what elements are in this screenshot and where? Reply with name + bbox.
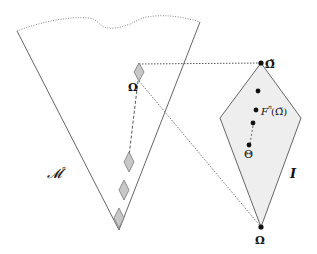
dot-1 [256,89,261,94]
cone-top-boundary [17,16,200,31]
region-I [220,63,301,227]
label-omega-left: Ω [128,81,138,94]
dot-omega-bottom [258,224,263,229]
diamond-2 [124,152,134,172]
label-region-I: I [289,166,297,181]
diamond-omega [134,63,144,81]
top-connector [139,63,261,64]
left-cone-manifold [17,16,200,230]
label-manifold-superscript: n [62,164,66,171]
dot-theta [247,143,252,148]
diamond-4 [114,208,124,228]
dot-omega-tilde [258,60,263,65]
dot-3 [251,121,256,126]
diamond-3 [119,180,129,200]
diagram-canvas: Ω 𝓜 n Ω̃ F n (Ω̃) Θ I Ω [0,0,317,254]
cone-left-edge [17,31,119,230]
cone-right-edge [119,22,200,230]
label-F-argument: (Ω̃) [271,106,287,117]
label-theta: Θ [244,148,253,161]
label-omega-bottom: Ω [255,234,265,247]
dot-fn-omega [254,108,259,113]
label-omega-tilde: Ω̃ [265,58,275,71]
